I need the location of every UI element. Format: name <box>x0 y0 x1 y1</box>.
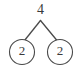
left-branch-line <box>25 21 41 41</box>
root-node-label: 4 <box>37 2 44 17</box>
tree-diagram-canvas: 4 2 2 <box>0 0 81 77</box>
left-child-label: 2 <box>19 43 26 58</box>
number-bond-diagram: 4 2 2 <box>0 0 81 77</box>
right-branch-line <box>41 21 58 41</box>
right-child-label: 2 <box>57 43 64 58</box>
